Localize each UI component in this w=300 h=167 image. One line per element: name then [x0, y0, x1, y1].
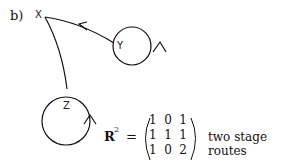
matrix-cell: 2 — [179, 143, 187, 158]
matrix-cell: 1 — [179, 113, 187, 128]
node-x-label: X — [35, 9, 42, 20]
equals-sign: = — [126, 129, 137, 144]
matrix-caption: two stage routes — [208, 130, 300, 158]
matrix-cell: 1 — [149, 128, 157, 143]
matrix-cell: 1 — [149, 143, 157, 158]
matrix-row: 1 1 1 — [149, 128, 187, 143]
matrix-cell: 1 — [164, 128, 172, 143]
matrix-exponent: 2 — [114, 125, 119, 134]
matrix-cell: 1 — [149, 113, 157, 128]
matrix-row: 1 0 2 — [149, 143, 187, 158]
matrix: 1 0 1 1 1 1 1 0 2 — [142, 113, 194, 163]
node-z-label: Z — [63, 100, 70, 111]
part-label: b) — [10, 8, 23, 23]
edge-x-to-z — [45, 17, 67, 89]
matrix-cell: 0 — [164, 113, 172, 128]
matrix-row: 1 0 1 — [149, 113, 187, 128]
node-y-label: Y — [117, 40, 123, 51]
matrix-cell: 0 — [164, 143, 172, 158]
arrow-loop-y-icon — [153, 42, 166, 52]
matrix-cell: 1 — [179, 128, 187, 143]
